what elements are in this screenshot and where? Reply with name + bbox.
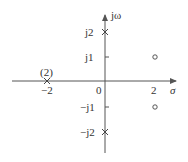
origin-label: 0 [96,84,102,96]
sigma-axis-label: σ [170,84,176,96]
zero-marker-2-plus-j1 [153,55,157,59]
pole-zero-plot: jω σ 0 j2 j1 −j1 −j2 −2 2 (2) [0,0,188,162]
tick-label-j2: j2 [84,26,94,38]
pole-multiplicity-label: (2) [40,66,53,79]
zero-marker-2-minus-j1 [153,105,157,109]
tick-label-neg2: −2 [41,84,53,96]
jw-axis-label: jω [110,9,121,21]
tick-label-2: 2 [151,84,157,96]
tick-label-j1: j1 [84,51,94,63]
tick-label-neg-j1: −j1 [80,101,95,113]
tick-label-neg-j2: −j2 [80,126,95,138]
